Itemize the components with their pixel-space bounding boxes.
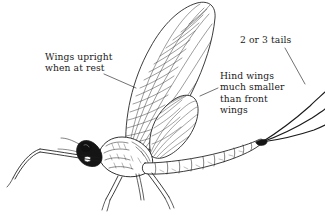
hindleg	[136, 173, 174, 209]
leader-line-tails	[285, 48, 305, 84]
leader-line-hind-wings	[200, 88, 218, 96]
compound-eye	[81, 142, 91, 151]
callout-hind-wings: Hind wings much smaller than front wings	[220, 70, 284, 116]
mayfly-figure: Wings upright when at rest 2 or 3 tails …	[0, 0, 325, 216]
callout-tails: 2 or 3 tails	[240, 34, 291, 45]
midleg	[102, 176, 122, 211]
callout-wings-upright: Wings upright when at rest	[45, 51, 113, 74]
leader-line-wings-upright	[104, 74, 136, 88]
